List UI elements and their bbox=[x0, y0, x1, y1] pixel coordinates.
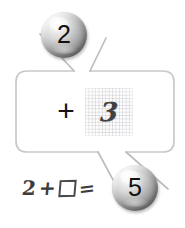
equation-plus-operator: + bbox=[38, 178, 57, 198]
number-sphere-5[interactable]: 5 bbox=[112, 165, 158, 211]
number-sphere-2[interactable]: 2 bbox=[41, 12, 87, 58]
sphere-label-2: 2 bbox=[57, 22, 71, 47]
callout-content: + 3 bbox=[16, 71, 174, 152]
sphere-label-5: 5 bbox=[128, 175, 142, 200]
top-notch-tail-right bbox=[90, 38, 106, 71]
equation-answer-placeholder-box[interactable] bbox=[58, 179, 77, 196]
handwritten-digit: 3 bbox=[99, 98, 118, 125]
equation-first-operand: 2 bbox=[21, 178, 37, 198]
handwritten-equation: 2 + = bbox=[22, 172, 94, 204]
graph-paper-cell: 3 bbox=[85, 88, 133, 136]
worksheet-canvas: + 3 2 5 2 + = bbox=[0, 0, 185, 228]
plus-operator: + bbox=[57, 96, 75, 126]
equation-equals-sign: = bbox=[78, 178, 94, 199]
